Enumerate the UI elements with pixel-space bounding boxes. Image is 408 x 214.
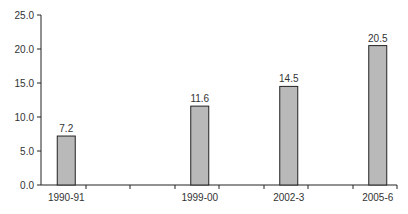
chart-canvas: 0.05.010.015.020.025.0 1990-911999-00200…: [0, 0, 408, 214]
bar-value-label: 14.5: [279, 73, 299, 84]
x-tick-label: 2002-3: [273, 192, 305, 203]
x-tick-label: 1990-91: [48, 192, 85, 203]
x-axis: 1990-911999-002002-32005-6: [41, 185, 397, 203]
y-tick-label: 0.0: [20, 180, 34, 191]
y-tick-label: 15.0: [15, 78, 35, 89]
bars: 7.211.614.520.5: [57, 33, 388, 185]
bar: [57, 136, 75, 185]
x-tick-label: 1999-00: [181, 192, 218, 203]
bar: [280, 86, 298, 185]
bar: [369, 46, 387, 185]
y-tick-label: 20.0: [15, 44, 35, 55]
bar-value-label: 7.2: [59, 123, 73, 134]
y-axis: 0.05.010.015.020.025.0: [15, 10, 41, 191]
bar-value-label: 11.6: [190, 93, 209, 104]
y-tick-label: 25.0: [15, 10, 35, 21]
bar-value-label: 20.5: [368, 33, 388, 44]
y-tick-label: 5.0: [20, 146, 34, 157]
bar-chart: 0.05.010.015.020.025.0 1990-911999-00200…: [0, 0, 408, 214]
bar: [191, 106, 209, 185]
x-tick-label: 2005-6: [362, 192, 394, 203]
y-tick-label: 10.0: [15, 112, 35, 123]
